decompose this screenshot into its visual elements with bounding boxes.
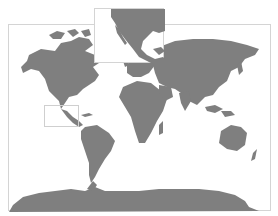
antarctica-shape (9, 187, 259, 212)
yucatan-shape (153, 47, 165, 55)
mexico-inset-map (94, 8, 164, 63)
australia-shape (219, 125, 247, 151)
south-america-shape (81, 125, 115, 183)
mexico-mainland-shape (111, 9, 165, 64)
inset-extent-box (44, 105, 79, 127)
inset-land-shapes (95, 9, 165, 64)
north-america-shape (21, 37, 99, 109)
